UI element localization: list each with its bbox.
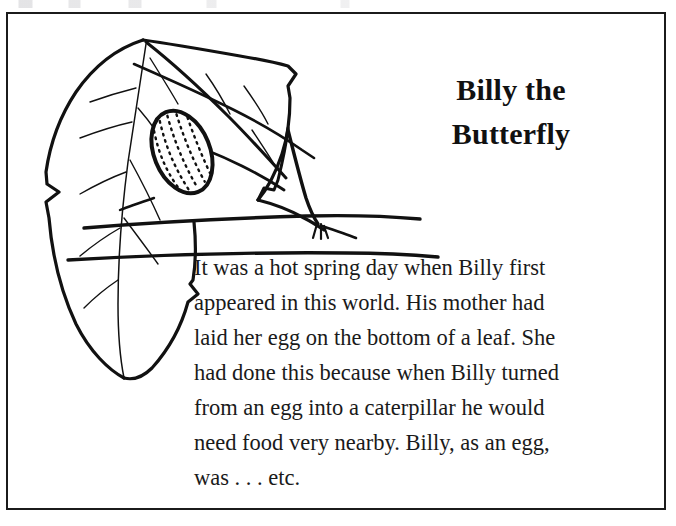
story-body: It was a hot spring day when Billy first… (194, 250, 614, 495)
title-line-1: Billy the (396, 68, 626, 112)
title-line-2: Butterfly (396, 112, 626, 156)
twig-fork (313, 224, 317, 238)
body-line: need food very nearby. Billy, as an egg, (194, 425, 614, 460)
body-line: It was a hot spring day when Billy first (194, 250, 614, 285)
leaf-vein (80, 122, 132, 138)
egg-outline (140, 102, 224, 203)
leaf-vein (90, 88, 136, 102)
story-page: Billy the Butterfly It was a hot spring … (0, 0, 676, 526)
body-line: laid her egg on the bottom of a leaf. Sh… (194, 320, 614, 355)
butterfly-egg (140, 102, 224, 203)
leaf-vein (84, 280, 118, 308)
leaf-vein (130, 160, 160, 220)
body-line: had done this because when Billy turned (194, 355, 614, 390)
leaf-stem (288, 130, 318, 224)
branch-line-upper (84, 216, 420, 228)
scan-artifact (10, 0, 430, 8)
story-title: Billy the Butterfly (396, 68, 626, 156)
leaf-vein (80, 172, 126, 194)
leaf-blade (46, 40, 143, 378)
leaf-midrib (118, 44, 146, 378)
leaf-vein (252, 130, 274, 164)
leaf-vein (80, 228, 120, 256)
leaf-lower-right-edge (124, 222, 198, 379)
body-line: from an egg into a caterpillar he would (194, 390, 614, 425)
body-line: was . . . etc. (194, 460, 614, 495)
leaf-under-egg-edge (120, 198, 154, 210)
body-line: appeared in this world. His mother had (194, 285, 614, 320)
